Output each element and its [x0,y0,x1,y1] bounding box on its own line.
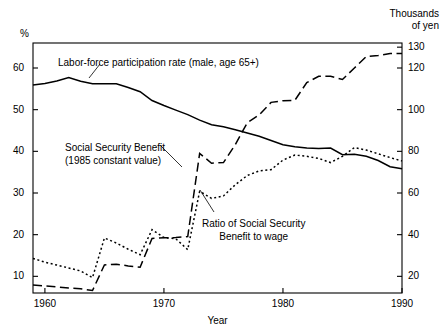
series-line-0 [33,78,402,169]
benefit-leader [160,145,182,167]
x-axis-title: Year [178,315,258,327]
labor-force-leader [89,64,100,78]
series-line-2 [33,148,402,278]
data-series-group [33,53,402,290]
ratio-leader [200,190,214,212]
plot-frame [33,43,402,293]
chart-figure: % Thousands of yen 102030405060204060801… [0,0,443,336]
axis-ticks-group [33,47,402,293]
axes-group [33,43,402,293]
annotation-leader-lines-group [89,64,214,212]
series-line-1 [33,53,402,290]
chart-plot-area [0,0,443,336]
